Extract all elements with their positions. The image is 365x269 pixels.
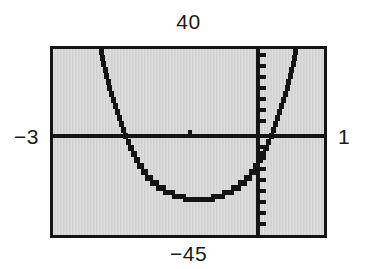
y-min-label: −45 bbox=[6, 243, 365, 264]
calculator-screen bbox=[50, 46, 327, 238]
x-min-label: −3 bbox=[14, 126, 39, 147]
plot-canvas bbox=[53, 49, 324, 235]
parabola-curve bbox=[99, 49, 298, 202]
graphing-calculator-figure: 40 bbox=[0, 0, 365, 269]
x-max-label: 1 bbox=[338, 126, 350, 147]
y-max-label: 40 bbox=[6, 11, 365, 32]
